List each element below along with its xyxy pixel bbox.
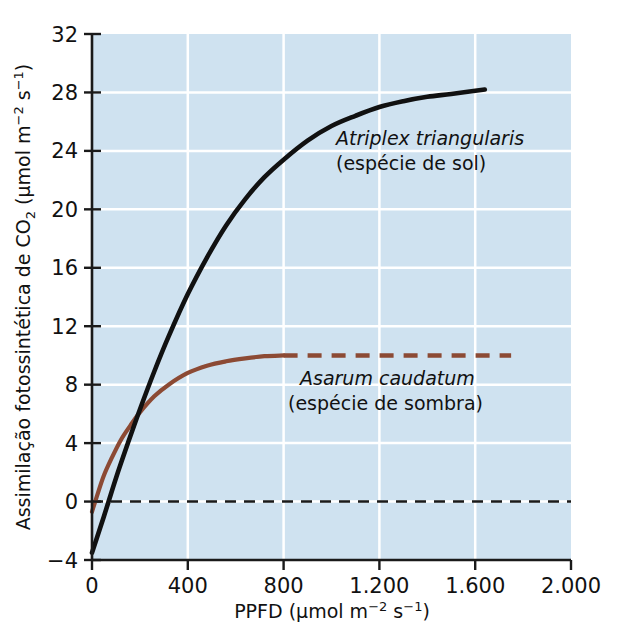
y-axis-title-unit-close: ) [12, 64, 34, 71]
x-axis-title-unit-s: s [387, 600, 403, 622]
x-tick-label: 0 [85, 574, 98, 598]
y-axis-title-exp-s: −1 [11, 71, 26, 90]
svg-text:Assimilação fotossintética de: Assimilação fotossintética de CO2 (µmol … [11, 64, 38, 531]
plot-panel-background [92, 34, 571, 560]
figure-container: −4048121620242832 04008001.2001.6002.000… [0, 0, 617, 633]
y-axis-tick-labels: −4048121620242832 [47, 23, 78, 573]
svg-text:PPFD (µmol m−2 s−1): PPFD (µmol m−2 s−1) [234, 599, 430, 622]
y-axis-title-unit-s: s [12, 90, 34, 106]
y-axis-title: Assimilação fotossintética de CO2 (µmol … [11, 64, 38, 531]
x-tick-label: 2.000 [541, 574, 601, 598]
y-tick-label: 28 [51, 81, 78, 105]
y-tick-label: 24 [51, 139, 78, 163]
y-axis-title-main: Assimilação fotossintética de CO [12, 219, 34, 530]
y-tick-label: 20 [51, 198, 78, 222]
photosynthesis-light-response-chart: −4048121620242832 04008001.2001.6002.000… [0, 0, 617, 633]
annotation-sun-species-sub: (espécie de sol) [336, 152, 486, 174]
annotation-sun-species-name: Atriplex triangularis [334, 127, 524, 149]
x-axis-title-exp-m: −2 [368, 599, 387, 614]
y-tick-label: 8 [65, 373, 78, 397]
x-axis-title-main: PPFD (µmol m [234, 600, 368, 622]
x-tick-label: 800 [264, 574, 304, 598]
x-axis-title-unit-close: ) [422, 600, 429, 622]
x-axis-title: PPFD (µmol m−2 s−1) [234, 599, 430, 622]
x-axis-tick-labels: 04008001.2001.6002.000 [85, 574, 601, 598]
y-axis-title-sub: 2 [23, 211, 38, 219]
y-tick-label: 32 [51, 23, 78, 47]
y-tick-label: 0 [65, 490, 78, 514]
x-tick-label: 1.600 [445, 574, 505, 598]
y-axis-title-exp-m: −2 [11, 106, 26, 125]
y-axis-title-unit-open: (µmol m [12, 125, 34, 211]
annotation-shade-species-name: Asarum caudatum [298, 367, 475, 389]
y-tick-label: 16 [51, 256, 78, 280]
x-tick-label: 1.200 [349, 574, 409, 598]
x-axis-title-exp-s: −1 [403, 599, 422, 614]
y-tick-label: 4 [65, 432, 78, 456]
annotation-shade-species-sub: (espécie de sombra) [288, 392, 483, 414]
x-tick-label: 400 [168, 574, 208, 598]
y-tick-label: 12 [51, 315, 78, 339]
y-tick-label: −4 [47, 549, 78, 573]
x-axis-tick-marks [92, 560, 571, 570]
